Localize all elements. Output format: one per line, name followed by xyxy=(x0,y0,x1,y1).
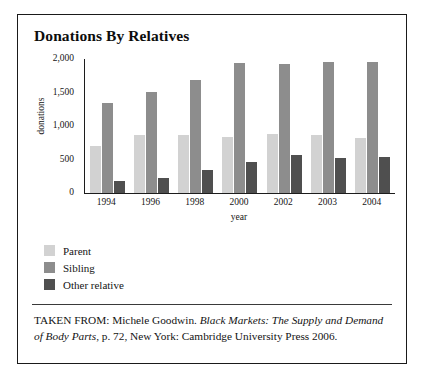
bar-parent-2004 xyxy=(355,138,366,193)
bar-chart: donations 05001,0001,5002,000 1994199619… xyxy=(26,59,400,231)
bar-sibling-1994 xyxy=(102,103,113,193)
caption-divider xyxy=(32,304,392,305)
bar-group xyxy=(134,59,169,193)
source-caption: TAKEN FROM: Michele Goodwin. Black Marke… xyxy=(34,312,390,344)
x-axis-title: year xyxy=(84,212,394,222)
bar-sibling-2002 xyxy=(279,64,290,193)
bar-other-relative-1998 xyxy=(202,170,213,193)
legend-item-other-relative: Other relative xyxy=(44,277,124,292)
figure-title: Donations By Relatives xyxy=(34,27,189,45)
x-tick-label: 2004 xyxy=(352,197,392,207)
legend-swatch-icon xyxy=(44,245,55,256)
plot-area xyxy=(84,59,395,194)
figure-frame: Donations By Relatives donations 05001,0… xyxy=(17,14,407,364)
bar-group xyxy=(355,59,390,193)
legend-item-parent: Parent xyxy=(44,243,124,258)
bar-other-relative-1996 xyxy=(158,178,169,193)
bar-other-relative-2000 xyxy=(246,162,257,193)
bar-sibling-1996 xyxy=(146,92,157,193)
bar-parent-1996 xyxy=(134,135,145,193)
bar-parent-2002 xyxy=(267,134,278,193)
bar-parent-1994 xyxy=(90,146,101,193)
x-tick-label: 2003 xyxy=(308,197,348,207)
bar-parent-1998 xyxy=(178,135,189,193)
bar-other-relative-2002 xyxy=(291,155,302,193)
bar-group xyxy=(222,59,257,193)
x-tick-label: 1998 xyxy=(175,197,215,207)
x-axis-ticks: 1994199619982000200220032004 xyxy=(84,197,394,207)
legend-label: Other relative xyxy=(63,279,124,291)
bar-other-relative-2003 xyxy=(335,158,346,193)
x-tick-label: 1996 xyxy=(130,197,170,207)
caption-suffix: , p. 72, New York: Cambridge University … xyxy=(96,330,337,342)
y-tick-label: 500 xyxy=(60,155,74,165)
bar-group xyxy=(311,59,346,193)
x-tick-label: 1994 xyxy=(86,197,126,207)
legend-swatch-icon xyxy=(44,262,55,273)
legend-label: Sibling xyxy=(63,262,95,274)
legend-swatch-icon xyxy=(44,279,55,290)
caption-prefix: TAKEN FROM: Michele Goodwin. xyxy=(34,314,200,326)
x-tick-label: 2002 xyxy=(263,197,303,207)
bar-group xyxy=(178,59,213,193)
bar-other-relative-2004 xyxy=(379,157,390,193)
bar-parent-2000 xyxy=(222,137,233,193)
bar-sibling-2003 xyxy=(323,62,334,193)
bar-group xyxy=(267,59,302,193)
bar-parent-2003 xyxy=(311,135,322,193)
legend-item-sibling: Sibling xyxy=(44,260,124,275)
legend-label: Parent xyxy=(63,245,91,257)
y-tick-label: 1,500 xyxy=(53,88,74,98)
bar-sibling-2000 xyxy=(234,63,245,193)
bar-other-relative-1994 xyxy=(114,181,125,193)
y-tick-label: 1,000 xyxy=(53,121,74,131)
y-axis-ticks: 05001,0001,5002,000 xyxy=(26,59,78,203)
y-tick-label: 0 xyxy=(69,188,74,198)
bar-sibling-1998 xyxy=(190,80,201,193)
bar-sibling-2004 xyxy=(367,62,378,193)
chart-legend: ParentSiblingOther relative xyxy=(44,243,124,294)
bar-groups xyxy=(85,59,395,193)
y-tick-label: 2,000 xyxy=(53,54,74,64)
bar-group xyxy=(90,59,125,193)
x-tick-label: 2000 xyxy=(219,197,259,207)
